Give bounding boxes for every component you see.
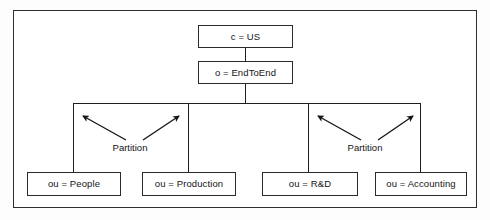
partition-label-right: Partition: [348, 143, 383, 153]
node-ou-rd[interactable]: ou = R&D: [262, 172, 358, 196]
node-ou-people[interactable]: ou = People: [27, 172, 121, 196]
partition-label-left: Partition: [113, 143, 148, 153]
node-ou-production[interactable]: ou = Production: [142, 172, 236, 196]
node-organization[interactable]: o = EndToEnd: [198, 61, 293, 84]
node-ou-accounting[interactable]: ou = Accounting: [375, 172, 467, 196]
diagram-canvas: c = US o = EndToEnd ou = People ou = Pro…: [0, 0, 490, 220]
node-country[interactable]: c = US: [198, 25, 293, 48]
